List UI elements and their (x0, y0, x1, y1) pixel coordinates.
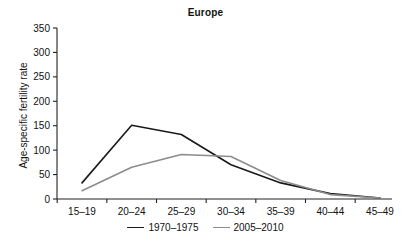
y-tick-label: 250 (33, 71, 50, 82)
chart-legend: 1970–19752005–2010 (0, 222, 411, 233)
x-tick-label: 45–49 (366, 206, 394, 217)
legend-label: 1970–1975 (148, 222, 198, 233)
plot-area: 050100150200250300350 15–1920–2425–2930–… (0, 0, 411, 244)
x-tick-label: 20–24 (118, 206, 146, 217)
x-axis-ticks (57, 199, 355, 203)
x-tick-label: 15–19 (68, 206, 96, 217)
y-axis-ticks: 050100150200250300350 (33, 23, 57, 205)
legend-line-swatch (213, 227, 230, 228)
y-tick-label: 350 (33, 23, 50, 34)
y-tick-label: 150 (33, 120, 50, 131)
y-tick-label: 0 (44, 194, 50, 205)
x-axis-labels: 15–1920–2425–2930–3435–3940–4445–49 (68, 206, 394, 217)
x-tick-label: 30–34 (217, 206, 245, 217)
legend-label: 2005–2010 (234, 222, 284, 233)
series-line (82, 125, 380, 198)
y-tick-label: 50 (39, 169, 51, 180)
x-tick-label: 25–29 (167, 206, 195, 217)
y-tick-label: 100 (33, 145, 50, 156)
legend-line-swatch (127, 227, 144, 228)
data-series-group (82, 125, 380, 198)
chart-figure: Europe Age-specific fertility rate 05010… (0, 0, 411, 244)
y-tick-label: 300 (33, 47, 50, 58)
legend-entry[interactable]: 2005–2010 (213, 222, 284, 233)
y-tick-label: 200 (33, 96, 50, 107)
series-line (82, 155, 380, 198)
legend-entry[interactable]: 1970–1975 (127, 222, 198, 233)
x-tick-label: 35–39 (267, 206, 295, 217)
x-tick-label: 40–44 (316, 206, 344, 217)
